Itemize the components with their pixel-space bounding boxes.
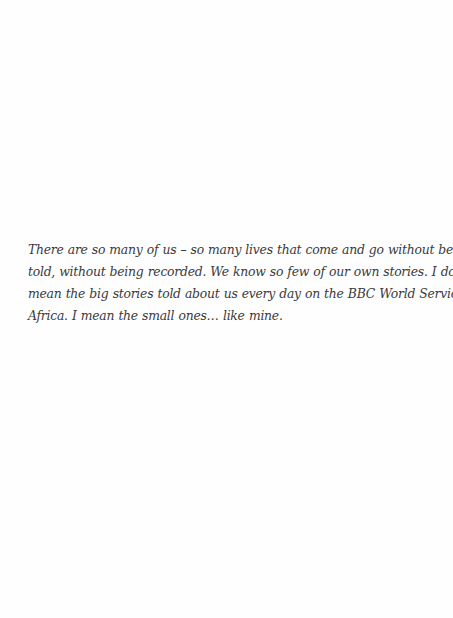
book-page: There are so many of us – so many lives … [0, 0, 453, 618]
paragraph-line: mean the big stories told about us every… [28, 283, 422, 305]
paragraph-line: Africa. I mean the small ones… like mine… [28, 305, 422, 327]
body-paragraph: There are so many of us – so many lives … [28, 239, 422, 327]
paragraph-line: told, without being recorded. We know so… [28, 261, 422, 283]
paragraph-line: There are so many of us – so many lives … [28, 239, 422, 261]
